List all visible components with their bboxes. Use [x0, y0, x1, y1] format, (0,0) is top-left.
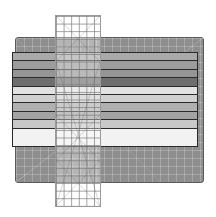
fabric-strip [13, 129, 197, 147]
fabric-strip [13, 87, 197, 95]
fabric-strip [13, 70, 197, 78]
fabric-strips-stack [12, 52, 198, 147]
ruler-angle-lines-icon [56, 16, 100, 206]
fabric-strip [13, 112, 197, 120]
fabric-strip [13, 95, 197, 103]
fabric-strip [13, 53, 197, 61]
fabric-strip [13, 78, 197, 86]
fabric-strip [13, 120, 197, 128]
quilting-ruler[interactable] [55, 15, 101, 207]
fabric-strip [13, 61, 197, 69]
fabric-strip [13, 103, 197, 111]
